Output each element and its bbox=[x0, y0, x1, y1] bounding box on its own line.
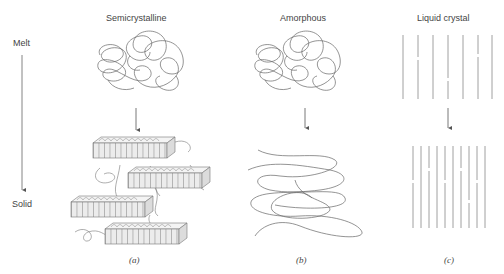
phase-diagram bbox=[0, 0, 504, 274]
semicrystalline-solid-lamellae bbox=[71, 137, 210, 244]
semicrystalline-melt-coil bbox=[98, 31, 183, 90]
liquid-crystal-melt-rods bbox=[403, 35, 492, 99]
liquid-crystal-solid-rods bbox=[413, 146, 485, 228]
amorphous-solid-chains bbox=[248, 150, 362, 237]
amorphous-melt-coil bbox=[255, 31, 340, 90]
